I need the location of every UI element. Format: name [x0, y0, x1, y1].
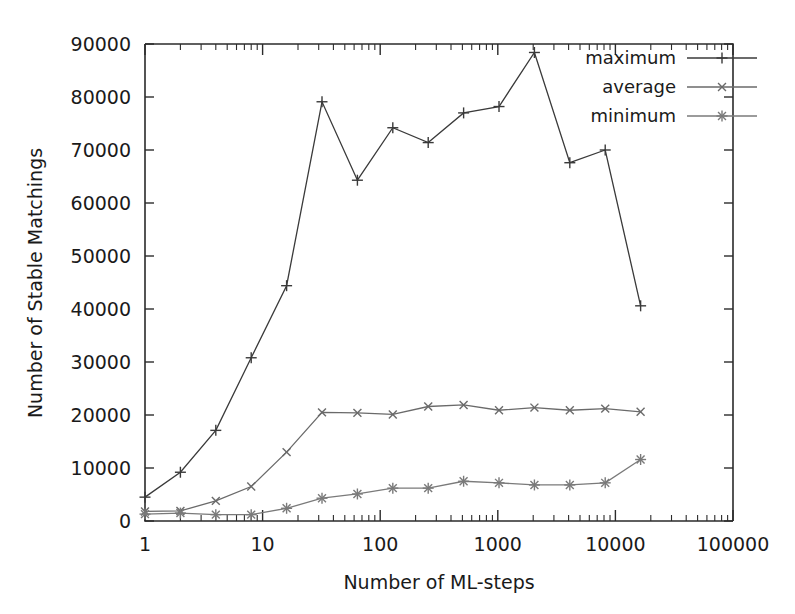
y-tick-label: 50000 [71, 245, 131, 267]
y-tick-label: 40000 [71, 298, 131, 320]
y-tick-label: 20000 [71, 404, 131, 426]
legend-label-average: average [602, 76, 676, 97]
chart-legend: maximumaverageminimum [585, 47, 757, 126]
y-tick-label: 10000 [71, 457, 131, 479]
y-tick-label: 90000 [71, 33, 131, 55]
x-tick-label: 10000 [585, 533, 645, 555]
series-average [141, 401, 645, 515]
series-maximum [140, 47, 647, 503]
series-minimum [140, 454, 647, 520]
chart-plot-svg: 0100002000030000400005000060000700008000… [0, 0, 795, 614]
y-tick-label: 80000 [71, 86, 131, 108]
y-tick-label: 60000 [71, 192, 131, 214]
y-tick-label: 70000 [71, 139, 131, 161]
series-line-average [145, 405, 641, 512]
chart-container: 0100002000030000400005000060000700008000… [0, 0, 795, 614]
x-tick-label: 100 [362, 533, 398, 555]
y-tick-label: 30000 [71, 351, 131, 373]
x-axis-title: Number of ML-steps [343, 571, 534, 593]
legend-label-minimum: minimum [591, 105, 676, 126]
x-tick-label: 1000 [474, 533, 522, 555]
x-tick-label: 10 [251, 533, 275, 555]
x-tick-label: 1 [139, 533, 151, 555]
legend-label-maximum: maximum [585, 47, 676, 68]
y-axis-title: Number of Stable Matchings [24, 148, 46, 418]
x-tick-label: 100000 [697, 533, 770, 555]
data-series-layer [140, 47, 647, 520]
y-tick-label: 0 [119, 510, 131, 532]
